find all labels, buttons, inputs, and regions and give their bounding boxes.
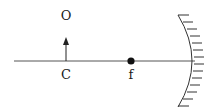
- object-arrow: [63, 37, 69, 61]
- center-label: C: [61, 67, 71, 82]
- optics-diagram: O C f: [0, 0, 214, 112]
- focus-label: f: [129, 67, 135, 82]
- object-label: O: [61, 8, 72, 23]
- focal-point-dot: [127, 57, 134, 64]
